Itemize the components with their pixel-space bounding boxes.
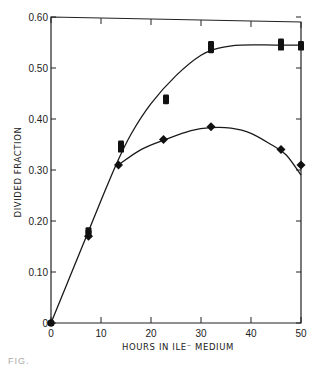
origin-marker — [48, 320, 55, 327]
square-marker — [298, 44, 304, 51]
caption-fragment: FIG. — [8, 356, 30, 366]
x-tick-label: 10 — [95, 328, 107, 339]
y-tick-label: 0.10 — [29, 267, 49, 278]
y-axis-ticks: 00.100.200.300.400.500.60 — [29, 12, 301, 329]
x-tick-label: 40 — [245, 328, 257, 339]
diamonds-fit-curve — [119, 127, 302, 175]
x-tick-label: 50 — [295, 328, 307, 339]
x-tick-label: 0 — [48, 328, 54, 339]
square-marker — [118, 146, 124, 153]
diamond-marker — [297, 160, 306, 169]
diamond-marker — [159, 135, 168, 144]
data-markers — [48, 39, 306, 327]
diamond-marker — [114, 160, 123, 169]
y-axis-label: DIVIDED FRACTION — [13, 127, 23, 218]
chart: 00.100.200.300.400.500.60 01020304050 DI… — [0, 0, 322, 368]
y-tick-label: 0.60 — [29, 12, 49, 23]
x-tick-label: 30 — [195, 328, 207, 339]
y-tick-label: 0.30 — [29, 165, 49, 176]
squares-fit-curve — [51, 45, 301, 323]
y-tick-label: 0.40 — [29, 114, 49, 125]
x-axis-label: HOURS IN ILE⁻ MEDIUM — [122, 342, 234, 352]
diamond-marker — [207, 122, 216, 131]
y-tick-label: 0.20 — [29, 216, 49, 227]
plot-frame — [51, 17, 301, 323]
fit-curves — [51, 45, 301, 323]
x-tick-label: 20 — [145, 328, 157, 339]
square-marker — [208, 46, 214, 53]
square-marker — [278, 44, 284, 51]
square-marker — [163, 97, 169, 104]
y-tick-label: 0.50 — [29, 63, 49, 74]
x-axis-ticks: 01020304050 — [48, 17, 307, 339]
